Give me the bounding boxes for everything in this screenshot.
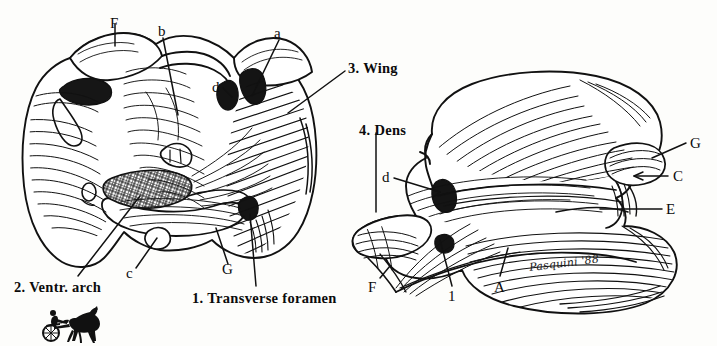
label-d-right: d xyxy=(382,170,390,185)
left-vertebra-drawing xyxy=(0,0,717,346)
label-F-right: F xyxy=(368,280,376,295)
label-G-right: G xyxy=(690,136,701,151)
illustration-page: F b a d c G 3. Wing 2. Ventr. arch 1. Tr… xyxy=(0,0,717,346)
label-dens: 4. Dens xyxy=(359,123,406,138)
label-ventr-arch: 2. Ventr. arch xyxy=(14,280,101,295)
label-transverse-foramen: 1. Transverse foramen xyxy=(192,291,337,306)
label-d-left: d xyxy=(212,80,220,95)
label-G-left: G xyxy=(222,262,233,277)
label-F-left: F xyxy=(110,16,118,31)
harness-racing-horse-icon xyxy=(40,306,108,344)
label-E-right: E xyxy=(666,202,675,217)
label-a-left: a xyxy=(274,26,281,41)
label-b-left: b xyxy=(158,24,166,39)
label-A-right: A xyxy=(494,280,505,295)
label-c-left: c xyxy=(126,266,133,281)
right-vertebra-drawing xyxy=(353,72,686,314)
label-1-right: 1 xyxy=(448,289,456,304)
label-C-right: C xyxy=(673,169,683,184)
label-wing: 3. Wing xyxy=(348,61,398,76)
